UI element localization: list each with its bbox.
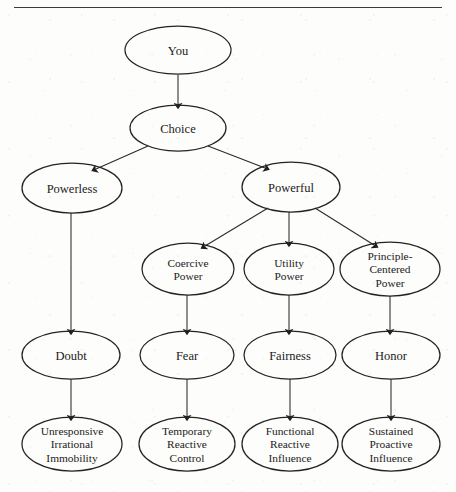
node-label-line: Centered: [369, 263, 410, 275]
node-label-line: Doubt: [55, 349, 87, 363]
node-label-coercive: CoercivePower: [167, 257, 208, 282]
power-process-diagram: YouChoicePowerlessPowerfulCoercivePowerU…: [0, 0, 456, 492]
node-layer: YouChoicePowerlessPowerfulCoercivePowerU…: [22, 26, 440, 471]
node-label-line: Honor: [375, 349, 408, 363]
node-you: You: [125, 26, 231, 74]
node-label-line: Control: [170, 452, 205, 464]
diagram-page: The Power Process YouChoicePowerlessPowe…: [0, 0, 456, 492]
node-outline-coercive: [142, 243, 234, 295]
node-doubt: Doubt: [22, 331, 120, 379]
node-label-line: Unresponsive: [41, 425, 104, 437]
node-coercive: CoercivePower: [142, 243, 234, 295]
node-label-line: Utility: [274, 257, 304, 269]
node-label-line: Temporary: [162, 425, 212, 437]
node-label-you: You: [168, 44, 189, 58]
node-label-utility: UtilityPower: [274, 257, 304, 282]
node-label-line: Choice: [160, 122, 196, 136]
node-label-line: Influence: [268, 452, 311, 464]
node-label-line: Power: [274, 270, 303, 282]
node-label-sustained: SustainedProactiveInfluence: [369, 425, 414, 463]
node-label-line: Irrational: [51, 438, 93, 450]
node-label-line: Principle-: [368, 250, 413, 262]
node-label-fear: Fear: [176, 349, 199, 363]
edge-choice-to-powerless: [96, 146, 148, 169]
node-fairness: Fairness: [244, 331, 336, 379]
node-label-control: TemporaryReactiveControl: [162, 425, 212, 463]
node-choice: Choice: [130, 105, 226, 151]
node-label-line: Functional: [266, 425, 315, 437]
node-label-line: Power: [173, 270, 202, 282]
node-label-line: You: [168, 44, 189, 58]
node-label-powerful: Powerful: [268, 181, 314, 195]
node-label-line: Powerless: [47, 182, 98, 196]
node-fear: Fear: [140, 331, 234, 379]
node-control: TemporaryReactiveControl: [139, 417, 235, 471]
node-label-choice: Choice: [160, 122, 196, 136]
node-immobility: UnresponsiveIrrationalImmobility: [22, 417, 122, 471]
node-label-fairness: Fairness: [269, 349, 311, 363]
node-label-principle: Principle-CenteredPower: [368, 250, 413, 288]
node-label-line: Power: [375, 277, 404, 289]
node-powerless: Powerless: [22, 163, 122, 213]
node-powerful: Powerful: [242, 162, 340, 212]
node-label-line: Fear: [176, 349, 199, 363]
node-label-honor: Honor: [375, 349, 408, 363]
node-label-line: Influence: [369, 452, 412, 464]
node-label-line: Immobility: [46, 452, 98, 464]
node-label-doubt: Doubt: [55, 349, 87, 363]
edge-powerful-to-coercive: [205, 208, 268, 246]
node-label-line: Coercive: [167, 257, 208, 269]
node-functional: FunctionalReactiveInfluence: [242, 417, 338, 471]
node-label-line: Proactive: [369, 438, 412, 450]
node-principle: Principle-CenteredPower: [340, 242, 440, 296]
edge-powerful-to-principle: [315, 208, 374, 245]
node-label-line: Sustained: [369, 425, 414, 437]
node-label-line: Reactive: [270, 438, 310, 450]
edge-layer: [71, 75, 391, 416]
node-label-line: Fairness: [269, 349, 311, 363]
node-label-functional: FunctionalReactiveInfluence: [266, 425, 315, 463]
node-utility: UtilityPower: [244, 243, 334, 295]
node-label-powerless: Powerless: [47, 182, 98, 196]
node-label-line: Reactive: [167, 438, 207, 450]
edge-choice-to-powerful: [208, 146, 265, 168]
node-honor: Honor: [342, 331, 440, 379]
node-outline-utility: [244, 243, 334, 295]
node-sustained: SustainedProactiveInfluence: [342, 417, 440, 471]
node-label-immobility: UnresponsiveIrrationalImmobility: [41, 425, 104, 463]
node-label-line: Powerful: [268, 181, 314, 195]
